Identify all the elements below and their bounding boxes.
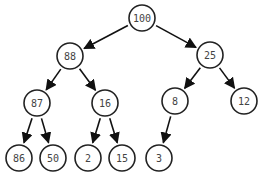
edge-arrow-25-to-12 [220, 68, 235, 88]
tree-node-2: 2 [75, 145, 101, 171]
tree-node-86: 86 [6, 145, 32, 171]
tree-node-25: 25 [197, 42, 223, 68]
edge-arrow-8-to-3 [163, 116, 170, 142]
node-label: 50 [47, 153, 59, 164]
tree-node-12: 12 [231, 88, 257, 114]
edge-arrow-88-to-16 [80, 69, 96, 90]
node-label: 2 [85, 153, 91, 164]
node-label: 86 [13, 153, 25, 164]
tree-node-3: 3 [146, 145, 172, 171]
edges [24, 25, 235, 142]
edge-arrow-100-to-88 [84, 25, 128, 48]
tree-diagram: 1008825871681286502153 [0, 0, 264, 175]
node-label: 15 [116, 153, 128, 164]
edge-arrow-88-to-87 [46, 69, 61, 90]
tree-node-8: 8 [162, 88, 188, 114]
tree-node-88: 88 [57, 43, 83, 69]
edge-arrow-87-to-50 [41, 118, 48, 142]
node-label: 16 [99, 98, 111, 109]
tree-node-16: 16 [92, 90, 118, 116]
tree-node-15: 15 [109, 145, 135, 171]
edge-arrow-16-to-15 [110, 118, 118, 142]
nodes: 1008825871681286502153 [6, 5, 257, 171]
tree-node-100: 100 [129, 5, 155, 31]
node-label: 12 [238, 96, 250, 107]
edge-arrow-16-to-2 [93, 118, 101, 142]
tree-node-87: 87 [24, 90, 50, 116]
edge-arrow-25-to-8 [185, 68, 201, 89]
tree-node-50: 50 [40, 145, 66, 171]
edge-arrow-100-to-25 [156, 26, 196, 48]
node-label: 3 [156, 153, 162, 164]
node-label: 8 [172, 96, 178, 107]
edge-arrow-87-to-86 [24, 118, 32, 143]
node-label: 87 [31, 98, 43, 109]
node-label: 88 [64, 51, 76, 62]
node-label: 25 [204, 50, 216, 61]
node-label: 100 [133, 13, 151, 24]
